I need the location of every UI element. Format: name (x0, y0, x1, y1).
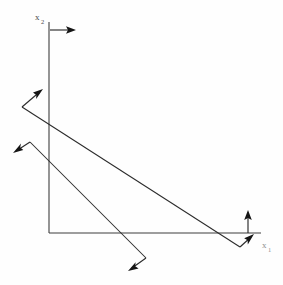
normal-arrow-upper-right (240, 234, 254, 247)
normal-arrow-lower-right (128, 258, 146, 271)
normal-arrow-upper-right-head (244, 234, 254, 244)
x1-axis-label-base: x (262, 240, 267, 250)
constraint-line-lower (30, 142, 146, 258)
axis-direction-arrows-group (50, 26, 252, 233)
normal-arrow-lower-right-head (128, 262, 139, 271)
figure-canvas: x 2 x 1 (0, 0, 283, 285)
normal-arrow-upper-left (22, 89, 43, 107)
constraint-line-upper (22, 107, 240, 247)
normal-arrow-upper-left-head (33, 89, 43, 99)
x2-axis-direction-arrow (50, 26, 76, 34)
axes-group (49, 22, 261, 233)
constraint-line-lower-group (13, 142, 146, 271)
x1-axis-label: x 1 (262, 240, 271, 253)
x2-axis-label-base: x (35, 12, 40, 22)
linear-programming-diagram: x 2 x 1 (0, 0, 283, 285)
axis-labels-group: x 2 x 1 (35, 12, 271, 253)
normal-arrow-lower-left (13, 142, 30, 153)
x2-axis-label-subscript: 2 (41, 18, 44, 25)
normal-arrow-lower-left-head (13, 144, 23, 154)
x1-axis-direction-arrow (244, 210, 252, 233)
x1-axis-label-subscript: 1 (268, 246, 271, 253)
constraint-line-upper-group (22, 89, 254, 247)
x2-axis-label: x 2 (35, 12, 44, 25)
